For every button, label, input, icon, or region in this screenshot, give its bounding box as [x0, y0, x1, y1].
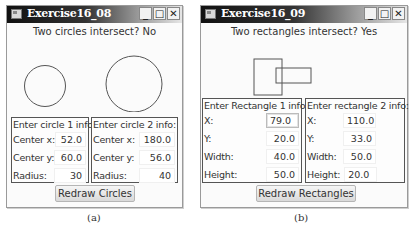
- y-label: Y:: [204, 133, 211, 144]
- height-label: Height:: [307, 169, 340, 180]
- circle1-center-y-input[interactable]: 60.0: [54, 150, 86, 165]
- width-label: Width:: [307, 151, 337, 162]
- rectangle-1-panel: Enter Rectangle 1 info: X: 79.0 Y: 20.0 …: [202, 98, 302, 183]
- app-icon: [11, 9, 22, 19]
- redraw-circles-button[interactable]: Redraw Circles: [55, 185, 135, 202]
- circle-1-panel: Enter circle 1 info: Center x: 52.0 Cent…: [11, 117, 89, 183]
- intersect-status: Two rectangles intersect? Yes: [201, 26, 407, 37]
- redraw-rectangles-button[interactable]: Redraw Rectangles: [256, 185, 356, 202]
- rect1-y-input[interactable]: 20.0: [266, 131, 299, 146]
- center-y-label: Center y:: [13, 152, 54, 163]
- x-label: X:: [204, 115, 213, 126]
- center-y-label: Center y:: [93, 152, 134, 163]
- circle1-center-x-input[interactable]: 52.0: [55, 132, 86, 147]
- panel-title: Enter rectangle 2 info:: [306, 99, 404, 111]
- rect2-x-input[interactable]: 110.0: [343, 113, 376, 128]
- width-label: Width:: [204, 151, 234, 162]
- title-bar[interactable]: Exercise16_08 _ □ ✕: [7, 6, 182, 23]
- close-button[interactable]: ✕: [167, 7, 180, 20]
- close-button[interactable]: ✕: [392, 7, 405, 20]
- radius-label: Radius:: [13, 170, 47, 181]
- center-x-label: Center x:: [93, 134, 135, 145]
- rect2-height-input[interactable]: 20.0: [344, 167, 377, 182]
- window-title: Exercise16_08: [27, 7, 111, 20]
- window-exercise16-09: Exercise16_09 _ □ ✕ Two rectangles inter…: [200, 5, 408, 208]
- panel-title: Enter Rectangle 1 info:: [203, 99, 301, 111]
- circle-2-panel: Enter circle 2 info: Center x: 180.0 Cen…: [91, 117, 178, 183]
- x-label: X:: [307, 115, 316, 126]
- window-title: Exercise16_09: [221, 7, 305, 20]
- circle-2: [106, 56, 162, 112]
- minimize-button[interactable]: _: [364, 7, 377, 20]
- circle2-center-y-input[interactable]: 56.0: [139, 150, 175, 165]
- title-bar[interactable]: Exercise16_09 _ □ ✕: [201, 6, 407, 23]
- height-label: Height:: [204, 169, 237, 180]
- y-label: Y:: [307, 133, 314, 144]
- rectangle-2-panel: Enter rectangle 2 info: X: 110.0 Y: 33.0…: [305, 98, 405, 183]
- panel-title: Enter circle 1 info:: [12, 118, 88, 130]
- maximize-button[interactable]: □: [378, 7, 391, 20]
- rect1-x-input[interactable]: 79.0: [266, 113, 299, 128]
- circle1-radius-input[interactable]: 30: [54, 168, 86, 183]
- radius-label: Radius:: [93, 170, 127, 181]
- rectangle-2: [276, 68, 311, 83]
- center-x-label: Center x:: [13, 134, 55, 145]
- rect2-width-input[interactable]: 50.0: [343, 149, 376, 164]
- circle2-center-x-input[interactable]: 180.0: [139, 132, 175, 147]
- circles-canvas: [7, 40, 182, 112]
- rect2-y-input[interactable]: 33.0: [343, 131, 376, 146]
- rectangle-1: [254, 59, 282, 95]
- intersect-status: Two circles intersect? No: [7, 26, 182, 37]
- caption-a: (a): [87, 212, 101, 223]
- app-icon: [205, 9, 216, 19]
- window-exercise16-08: Exercise16_08 _ □ ✕ Two circles intersec…: [6, 5, 183, 208]
- rect1-height-input[interactable]: 50.0: [266, 167, 299, 182]
- caption-b: (b): [294, 212, 308, 223]
- minimize-button[interactable]: _: [139, 7, 152, 20]
- circle-1: [25, 66, 66, 107]
- panel-title: Enter circle 2 info:: [92, 118, 177, 130]
- rect1-width-input[interactable]: 40.0: [266, 149, 299, 164]
- circle2-radius-input[interactable]: 40: [139, 168, 175, 183]
- maximize-button[interactable]: □: [153, 7, 166, 20]
